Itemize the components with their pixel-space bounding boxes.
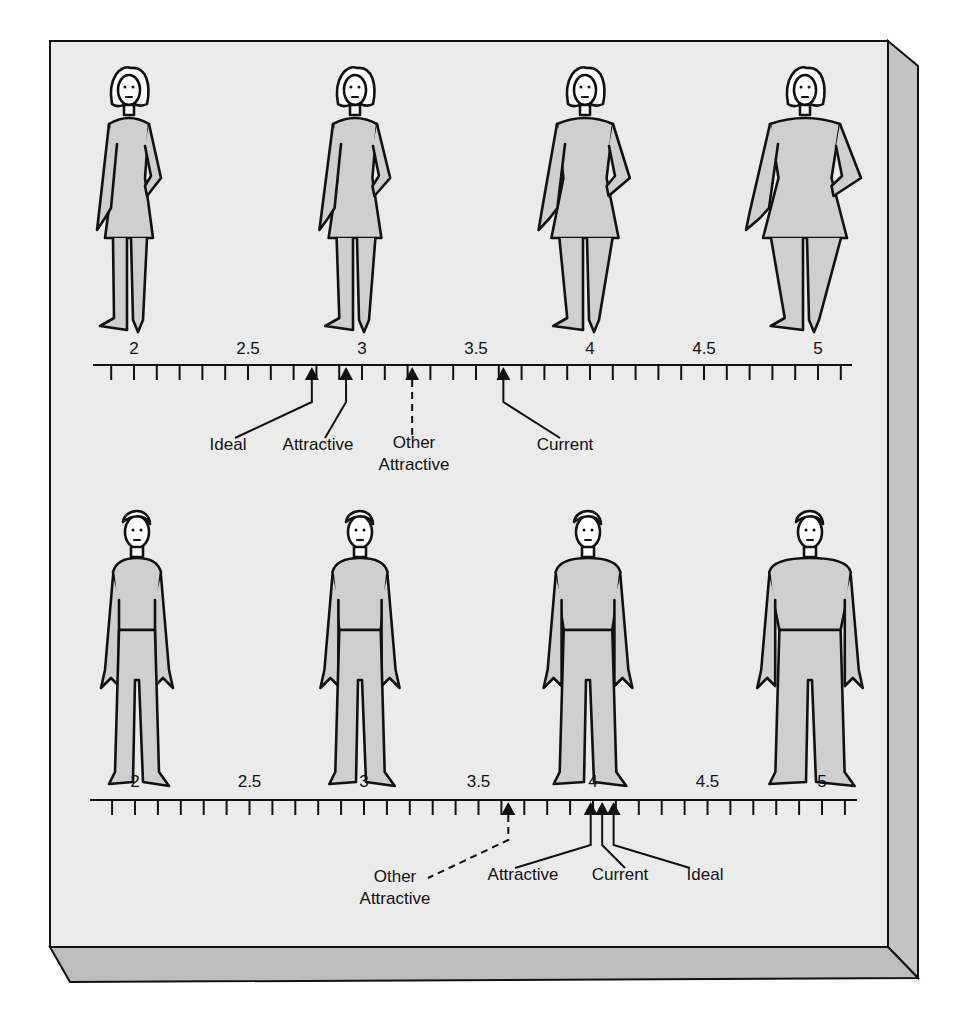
marker-label: Other (374, 867, 417, 886)
panel-bottom-face (50, 947, 918, 982)
body-image-diagram: 22.533.544.55IdealAttractiveOtherAttract… (0, 0, 960, 1023)
face (118, 75, 140, 105)
marker-label: Ideal (687, 865, 724, 884)
marker-label: Attractive (379, 455, 450, 474)
scale-tick-label: 4 (588, 772, 597, 791)
face (125, 516, 149, 548)
scale-tick-label: 4 (585, 339, 594, 358)
scale-tick-label: 4.5 (692, 339, 716, 358)
face (798, 516, 822, 548)
marker-label: Attractive (283, 435, 354, 454)
face (574, 75, 596, 105)
marker-label: Other (393, 433, 436, 452)
scale-tick-label: 3.5 (464, 339, 488, 358)
marker-label: Current (537, 435, 594, 454)
scale-tick-label: 2 (130, 772, 139, 791)
marker-label: Ideal (210, 435, 247, 454)
panel-side-face (888, 41, 918, 978)
shirt (332, 558, 387, 630)
face (344, 75, 366, 105)
marker-label: Attractive (360, 889, 431, 908)
scale-tick-label: 3.5 (467, 772, 491, 791)
scale-tick-label: 5 (813, 339, 822, 358)
scale-tick-label: 3 (357, 339, 366, 358)
marker-label: Attractive (488, 865, 559, 884)
scale-tick-label: 2.5 (236, 339, 260, 358)
shirt (769, 558, 851, 630)
face (576, 516, 600, 548)
face (794, 75, 816, 105)
scale-tick-label: 2.5 (238, 772, 262, 791)
marker-label: Current (592, 865, 649, 884)
scale-tick-label: 2 (129, 339, 138, 358)
scale-tick-label: 5 (817, 772, 826, 791)
shirt (556, 558, 621, 630)
face (348, 516, 372, 548)
scale-tick-label: 3 (359, 772, 368, 791)
scale-tick-label: 4.5 (696, 772, 720, 791)
